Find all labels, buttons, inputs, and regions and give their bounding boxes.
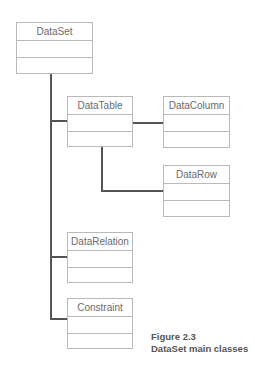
class-box-dataset: DataSet [16,22,93,74]
class-attributes-section [68,115,132,132]
class-box-datarow: DataRow [163,165,230,217]
class-name-datatable: DataTable [68,97,132,115]
class-box-datarelation: DataRelation [67,232,133,283]
connector-datatable-datarow-vertical [101,147,103,191]
class-attributes-section [68,251,132,268]
connector-dataset-datarelation [50,256,67,258]
class-attributes-section [68,317,132,334]
class-box-datacolumn: DataColumn [163,96,230,148]
class-name-datarelation: DataRelation [68,233,132,251]
class-methods-section [17,58,92,74]
connector-dataset-constraint [50,318,67,320]
class-methods-section [68,334,132,350]
class-attributes-section [164,184,229,201]
class-box-constraint: Constraint [67,298,133,349]
connector-dataset-datatable [50,120,67,122]
class-name-dataset: DataSet [17,23,92,41]
class-methods-section [68,132,132,148]
figure-caption: Figure 2.3 DataSet main classes [151,331,248,355]
class-name-datarow: DataRow [164,166,229,184]
class-name-datacolumn: DataColumn [164,97,229,115]
class-attributes-section [164,115,229,132]
class-methods-section [164,132,229,148]
connector-datatable-datarow-horizontal [101,190,163,192]
class-box-datatable: DataTable [67,96,133,147]
figure-title: DataSet main classes [151,343,248,355]
connector-dataset-trunk [50,74,52,319]
class-methods-section [164,201,229,217]
class-attributes-section [17,41,92,58]
class-name-constraint: Constraint [68,299,132,317]
class-methods-section [68,268,132,284]
figure-number: Figure 2.3 [151,331,248,343]
connector-datatable-datacolumn [133,122,163,124]
